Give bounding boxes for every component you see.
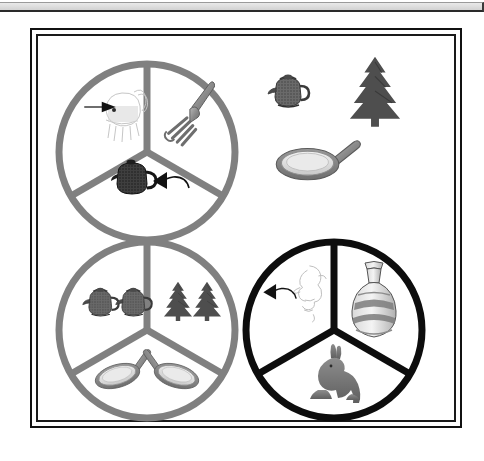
sector-upper-right-contents bbox=[352, 262, 396, 338]
circle-bottom-right bbox=[246, 242, 422, 418]
faint-face-profile-sketch-icon bbox=[293, 266, 326, 322]
frying-pan-icon bbox=[276, 141, 360, 180]
pine-tree-icon bbox=[164, 282, 192, 321]
fork-icon bbox=[165, 82, 215, 145]
loose-objects-group bbox=[268, 57, 400, 180]
pine-tree-icon bbox=[193, 282, 221, 321]
sector-upper-left-contents bbox=[83, 288, 152, 316]
dark-teapot-icon bbox=[111, 159, 156, 194]
faint-animal-sketch-icon bbox=[106, 90, 148, 142]
circle-top-left bbox=[59, 64, 235, 240]
teapot-icon bbox=[83, 288, 119, 316]
sector-upper-left-contents bbox=[84, 90, 147, 142]
sector-upper-right-contents bbox=[165, 82, 215, 145]
rabbit-icon bbox=[310, 344, 360, 403]
pointing-arrow-icon bbox=[263, 284, 296, 300]
sector-bottom-contents bbox=[310, 344, 360, 403]
teapot-icon bbox=[268, 75, 309, 107]
pine-tree-icon bbox=[350, 57, 400, 127]
page-top-rule bbox=[0, 2, 484, 12]
sector-bottom-contents bbox=[111, 159, 189, 194]
sector-upper-right-contents bbox=[164, 282, 221, 321]
figure-frame bbox=[30, 28, 462, 428]
sector-upper-left-contents bbox=[263, 266, 326, 322]
decorated-vase-icon bbox=[352, 262, 396, 338]
circle-bottom-left bbox=[59, 242, 235, 418]
screenshot-root bbox=[0, 0, 484, 461]
figure-canvas bbox=[32, 30, 464, 430]
